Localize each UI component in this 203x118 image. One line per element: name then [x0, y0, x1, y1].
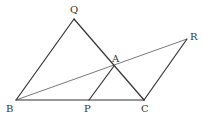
segment-BQ [16, 19, 74, 100]
label-R: R [190, 31, 198, 42]
label-A: A [111, 53, 120, 64]
label-P: P [84, 103, 91, 114]
label-B: B [6, 103, 13, 114]
label-Q: Q [70, 4, 78, 15]
label-C: C [141, 103, 149, 114]
geometry-diagram: Q B C R A P [0, 0, 203, 118]
segment-QC [74, 19, 144, 100]
segment-AP [89, 66, 114, 100]
segment-RC [144, 39, 187, 100]
segment-BR [16, 39, 187, 100]
